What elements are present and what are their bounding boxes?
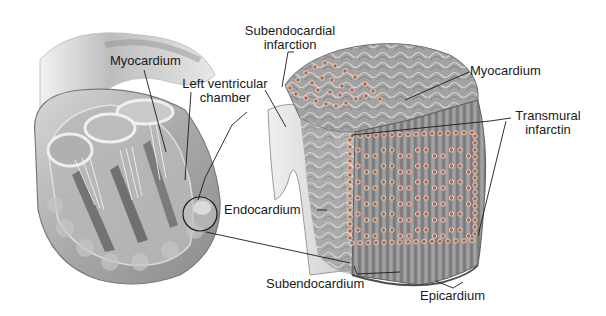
label-left-ventricular-chamber-line1: Left ventricular <box>178 77 272 91</box>
label-endocardium: Endocardium <box>224 203 301 217</box>
label-transmural-infarction-line1: Transmural <box>508 109 588 123</box>
label-subendocardial-infarction-line1: Subendocardial <box>240 24 340 38</box>
label-left-ventricular-chamber-line2: chamber <box>178 91 272 105</box>
label-subendocardium: Subendocardium <box>266 277 364 291</box>
heart-cross-section <box>35 33 221 284</box>
label-myocardium-left: Myocardium <box>110 54 181 68</box>
label-transmural-infarction-line2: infarctin <box>508 123 588 137</box>
diagram-canvas: Myocardium Left ventricular chamber Sube… <box>0 0 606 316</box>
label-myocardium-right: Myocardium <box>470 64 541 78</box>
label-subendocardial-infarction: Subendocardial infarction <box>240 24 340 52</box>
label-epicardium: Epicardium <box>420 289 485 303</box>
label-transmural-infarction: Transmural infarctin <box>508 109 588 137</box>
label-left-ventricular-chamber: Left ventricular chamber <box>178 77 272 105</box>
label-subendocardial-infarction-line2: infarction <box>240 38 340 52</box>
